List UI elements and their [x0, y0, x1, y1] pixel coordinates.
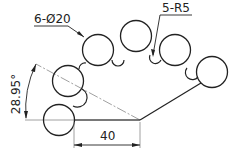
length-label: 40 [100, 130, 115, 142]
hole-circle-4 [121, 21, 152, 52]
radius-label: 5-R5 [162, 2, 190, 14]
angle-arrow-bottom [24, 111, 28, 119]
holes-leader-arrow [77, 31, 84, 37]
holes-label: 6-Ø20 [34, 13, 71, 25]
hole-circle-6 [197, 57, 228, 88]
hole-circle-5 [160, 35, 191, 66]
length-arrow-right [132, 143, 140, 147]
length-arrow-left [74, 143, 82, 147]
angle-dimension-arc [26, 64, 36, 118]
radius-leader-arrow [151, 49, 155, 57]
slanted-edge [140, 83, 201, 120]
angle-label: 28.95° [10, 72, 22, 116]
fillet-arc-2 [79, 63, 86, 69]
angle-arrow-top [31, 64, 36, 72]
fillet-arc-3 [112, 60, 124, 66]
hole-circle-3 [83, 35, 114, 66]
angle-centerline [36, 64, 140, 120]
fillet-arc-4 [149, 55, 161, 64]
